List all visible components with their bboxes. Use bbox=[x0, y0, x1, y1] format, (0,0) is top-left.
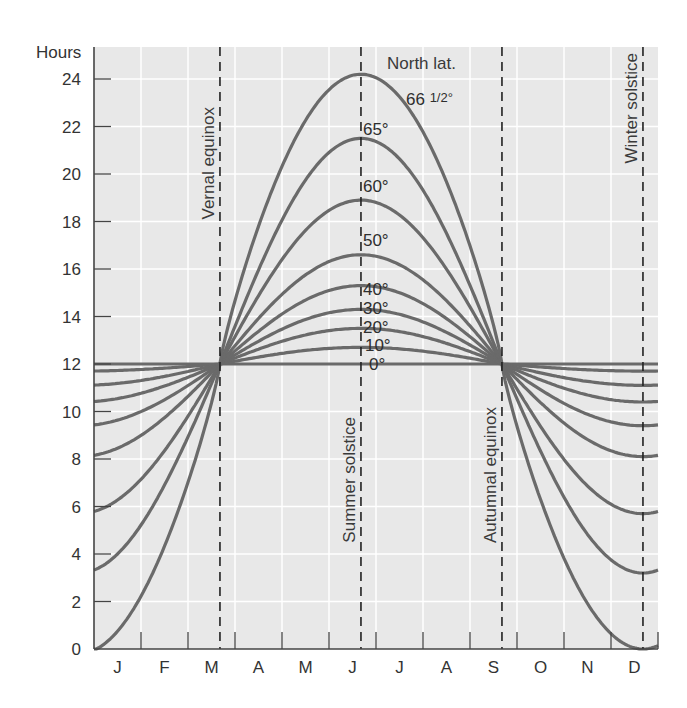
y-tick-label: 6 bbox=[72, 498, 81, 517]
y-tick-label: 22 bbox=[62, 118, 81, 137]
event-label-vernal-equinox: Vernal equinox bbox=[199, 107, 218, 220]
month-label: N bbox=[581, 658, 593, 677]
y-tick-label: 8 bbox=[72, 450, 81, 469]
latitude-label: 50° bbox=[363, 231, 389, 250]
latitude-label: 30° bbox=[363, 299, 389, 318]
latitude-label: 40° bbox=[363, 280, 389, 299]
month-label: J bbox=[395, 658, 404, 677]
month-label: D bbox=[628, 658, 640, 677]
month-label: O bbox=[534, 658, 547, 677]
x-axis-month-labels: JFMAMJJASOND bbox=[113, 658, 640, 677]
latitude-label: 65° bbox=[363, 120, 389, 139]
month-label: M bbox=[298, 658, 312, 677]
y-tick-label: 4 bbox=[72, 545, 81, 564]
legend-title: North lat. bbox=[387, 54, 456, 73]
y-tick-label: 24 bbox=[62, 70, 81, 89]
event-label-winter-solstice: Winter solstice bbox=[622, 53, 641, 164]
y-axis-title: Hours bbox=[36, 43, 81, 62]
event-label-summer-solstice: Summer solstice bbox=[340, 417, 359, 543]
y-tick-label: 0 bbox=[72, 640, 81, 659]
y-tick-label: 16 bbox=[62, 260, 81, 279]
month-label: J bbox=[113, 658, 122, 677]
y-tick-label: 14 bbox=[62, 308, 81, 327]
latitude-label: 20° bbox=[363, 318, 389, 337]
month-label: M bbox=[204, 658, 218, 677]
daylength-chart: Vernal equinoxSummer solsticeAutumnal eq… bbox=[0, 0, 687, 708]
event-label-autumnal-equinox: Autumnal equinox bbox=[481, 407, 500, 544]
month-label: F bbox=[159, 658, 169, 677]
y-tick-label: 10 bbox=[62, 403, 81, 422]
month-label: A bbox=[441, 658, 453, 677]
month-label: A bbox=[253, 658, 265, 677]
month-label: S bbox=[488, 658, 499, 677]
y-tick-label: 18 bbox=[62, 213, 81, 232]
latitude-label: 10° bbox=[365, 336, 391, 355]
y-tick-label: 20 bbox=[62, 165, 81, 184]
y-tick-label: 12 bbox=[62, 355, 81, 374]
month-label: J bbox=[348, 658, 357, 677]
latitude-label: 0° bbox=[369, 355, 385, 374]
latitude-label: 60° bbox=[363, 177, 389, 196]
y-tick-label: 2 bbox=[72, 593, 81, 612]
